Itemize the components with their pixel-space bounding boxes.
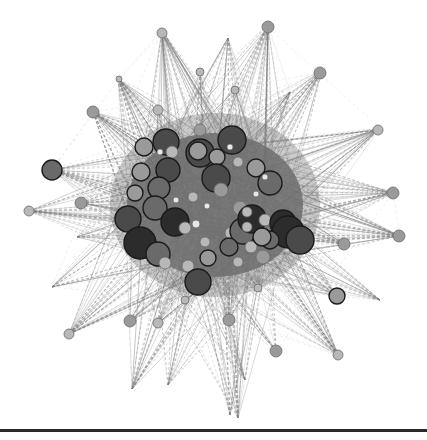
- graph-node: [227, 144, 233, 150]
- graph-node: [132, 163, 150, 181]
- graph-node: [209, 149, 225, 165]
- graph-node: [218, 126, 246, 154]
- graph-node: [220, 238, 238, 256]
- graph-node: [387, 187, 399, 199]
- graph-node: [75, 197, 87, 209]
- graph-node: [329, 288, 345, 304]
- graph-node: [204, 203, 210, 209]
- graph-node: [189, 142, 207, 160]
- graph-node: [181, 296, 189, 304]
- graph-node: [179, 222, 191, 234]
- graph-node: [258, 171, 282, 195]
- graph-node: [166, 146, 178, 158]
- graph-node: [373, 125, 383, 135]
- graph-node: [256, 250, 270, 264]
- graph-node: [393, 230, 405, 242]
- graph-node: [192, 220, 200, 228]
- graph-node: [200, 237, 210, 247]
- graph-node: [127, 185, 143, 201]
- graph-node: [157, 28, 167, 38]
- graph-node: [200, 250, 216, 266]
- network-graph: [0, 0, 427, 440]
- bottom-rule-divider: [0, 429, 427, 432]
- graph-node: [338, 238, 350, 250]
- graph-node: [253, 191, 259, 197]
- graph-node: [148, 177, 170, 199]
- graph-node: [194, 124, 206, 136]
- graph-node: [259, 214, 271, 226]
- graph-node: [135, 138, 153, 156]
- graph-node: [42, 160, 62, 180]
- graph-node: [124, 315, 136, 327]
- graph-node: [262, 174, 268, 180]
- graph-node: [223, 314, 235, 326]
- graph-node: [116, 76, 122, 82]
- graph-node: [153, 105, 163, 115]
- graph-node: [262, 21, 274, 33]
- graph-node: [242, 222, 252, 232]
- graph-node: [270, 345, 282, 357]
- graph-node: [87, 106, 99, 118]
- graph-node: [24, 206, 34, 216]
- graph-node: [196, 68, 204, 76]
- graph-node: [314, 67, 326, 79]
- graph-node: [254, 284, 262, 292]
- graph-node: [242, 207, 252, 217]
- graph-node: [64, 329, 74, 339]
- graph-node: [173, 197, 179, 203]
- graph-node: [185, 269, 211, 295]
- graph-node: [233, 157, 243, 167]
- graph-node: [253, 228, 271, 246]
- graph-node: [157, 149, 163, 155]
- graph-node: [231, 86, 239, 94]
- graph-edge: [393, 193, 400, 236]
- graph-node: [153, 318, 163, 328]
- graph-edge: [229, 320, 338, 355]
- graph-node: [233, 257, 243, 267]
- graph-node: [333, 350, 343, 360]
- graph-node: [214, 183, 228, 197]
- graph-node: [286, 226, 314, 254]
- graph-node: [188, 192, 198, 202]
- graph-node: [159, 257, 171, 269]
